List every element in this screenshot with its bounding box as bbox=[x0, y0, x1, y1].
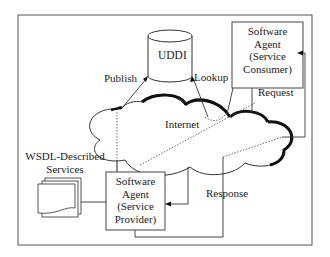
provider-in-arrowhead bbox=[165, 202, 171, 207]
service-consumer-label: Software Agent (Service Consumer) bbox=[232, 25, 303, 75]
wsdl-services-label: WSDL-Described Services bbox=[22, 150, 108, 175]
lookup-label: Lookup bbox=[194, 71, 228, 84]
request-label: Request bbox=[258, 86, 293, 99]
internet-cloud-shape bbox=[90, 95, 292, 176]
uddi-label: UDDI bbox=[158, 49, 187, 62]
publish-label: Publish bbox=[104, 72, 137, 85]
internet-label: Internet bbox=[165, 118, 199, 131]
service-provider-label: Software Agent (Service Provider) bbox=[106, 175, 165, 225]
wsdl-documents-icon bbox=[38, 178, 81, 217]
response-label: Response bbox=[206, 187, 248, 200]
publish-arrowhead bbox=[143, 76, 148, 82]
